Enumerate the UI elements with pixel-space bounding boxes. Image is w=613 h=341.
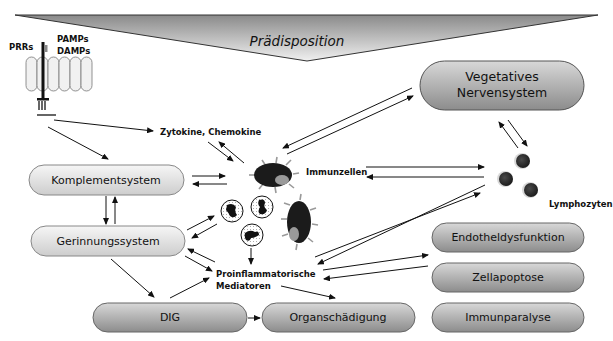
svg-text:Organschädigung: Organschädigung	[289, 311, 386, 324]
arrow-immune-to-vegetatives	[287, 96, 413, 154]
pamps-label: PAMPs	[57, 34, 89, 44]
receptor-membrane: PRRs PAMPs DAMPs	[9, 34, 92, 116]
svg-text:Komplementsystem: Komplementsystem	[51, 174, 160, 187]
arrow-receptor-to-zytokine	[54, 120, 153, 131]
lymphocytes-icon	[497, 153, 538, 198]
predisposition-label: Prädisposition	[250, 33, 345, 49]
svg-text:Proinflammatorische: Proinflammatorische	[216, 269, 316, 279]
svg-text:Gerinnungssystem: Gerinnungssystem	[56, 235, 159, 248]
arrow-neutrophils-to-gerinnung	[192, 224, 217, 238]
arrow-vegetatives-to-immune	[283, 88, 412, 148]
node-proinflammatorische-mediatoren: Proinflammatorische Mediatoren	[216, 269, 316, 291]
node-immunparalyse: Immunparalyse	[432, 303, 584, 332]
monocyte-icon	[281, 194, 318, 250]
predisposition-banner: Prädisposition	[15, 15, 598, 61]
node-zytokine-chemokine: Zytokine, Chemokine	[160, 127, 262, 137]
svg-text:Vegetatives: Vegetatives	[465, 69, 538, 84]
node-immunzellen: Immunzellen	[306, 167, 367, 177]
prrs-label: PRRs	[9, 42, 33, 52]
node-dig: DIG	[93, 303, 247, 332]
arrow-dig-to-mediatoren	[170, 278, 209, 298]
svg-text:Immunparalyse: Immunparalyse	[465, 311, 551, 324]
svg-text:Endotheldysfunktion: Endotheldysfunktion	[451, 231, 564, 244]
svg-text:Nervensystem: Nervensystem	[457, 85, 547, 100]
node-zellapoptose: Zellapoptose	[432, 263, 584, 292]
node-vegetatives-nervensystem: Vegetatives Nervensystem	[420, 61, 584, 110]
neutrophil-icon-2	[251, 196, 273, 218]
svg-text:Mediatoren: Mediatoren	[216, 281, 271, 291]
node-endotheldysfunktion: Endotheldysfunktion	[432, 223, 584, 252]
node-lymphozyten: Lymphozyten	[549, 199, 613, 209]
neutrophil-icon-3	[241, 224, 263, 246]
damps-label: DAMPs	[57, 46, 90, 56]
arrow-mediatoren-to-organ	[281, 286, 335, 298]
macrophage-icon	[249, 157, 299, 193]
arrow-lymphozyten-to-vegetatives	[499, 122, 518, 148]
arrow-zytokine-to-macrophage	[208, 142, 233, 161]
arrow-gerinnung-to-dig	[111, 259, 154, 297]
neutrophil-icon-1	[221, 200, 243, 222]
membrane-lipid-icon	[26, 57, 92, 91]
svg-text:DIG: DIG	[160, 311, 180, 324]
svg-text:Zellapoptose: Zellapoptose	[472, 271, 544, 284]
sepsis-pathophysiology-diagram: Prädisposition PRRs PAMPs DAMPs Vegetati…	[0, 0, 613, 341]
arrow-vegetatives-to-lymphozyten	[508, 120, 527, 146]
arrow-receptor-to-komplement	[48, 127, 108, 159]
node-gerinnungssystem: Gerinnungssystem	[31, 226, 185, 256]
node-organschaedigung: Organschädigung	[262, 303, 415, 332]
node-komplementsystem: Komplementsystem	[29, 165, 184, 195]
